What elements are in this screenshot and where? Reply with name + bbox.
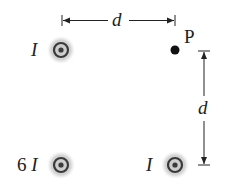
wire-bottom-right-label: I (146, 155, 152, 174)
point-p-label: P (184, 27, 195, 46)
vertical-distance-label: d (198, 98, 208, 117)
wire-top-left-icon (47, 36, 75, 64)
horizontal-distance-label: d (112, 10, 122, 29)
wire-top-left-label: I (31, 40, 37, 59)
wire-bottom-right-icon (161, 151, 189, 179)
wire-bottom-left-label: 6 I (17, 155, 38, 174)
wire-bottom-left-icon (47, 151, 75, 179)
point-p-dot (171, 46, 180, 55)
